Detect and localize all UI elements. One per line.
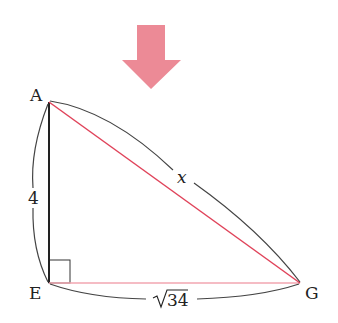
vertex-label-G: G [305, 283, 319, 303]
sqrt-radicand: 34 [167, 290, 189, 310]
down-arrow-icon [122, 25, 181, 89]
vertex-label-E: E [29, 283, 41, 303]
vertex-label-A: A [29, 85, 43, 105]
triangle-diagram: A E G 4 x 34 [0, 0, 338, 323]
side-label-AE: 4 [28, 188, 39, 208]
side-AG [49, 102, 300, 283]
arc-AE [33, 104, 48, 188]
arc-EG-left [50, 284, 146, 299]
side-label-EG: 34 [153, 290, 189, 310]
right-angle-marker [49, 260, 70, 283]
arc-AG-lower [194, 183, 300, 282]
side-label-AG: x [177, 167, 187, 187]
arc-AG-upper [50, 101, 173, 170]
arc-EG-right [197, 284, 299, 299]
arc-AE-lower [33, 208, 48, 282]
